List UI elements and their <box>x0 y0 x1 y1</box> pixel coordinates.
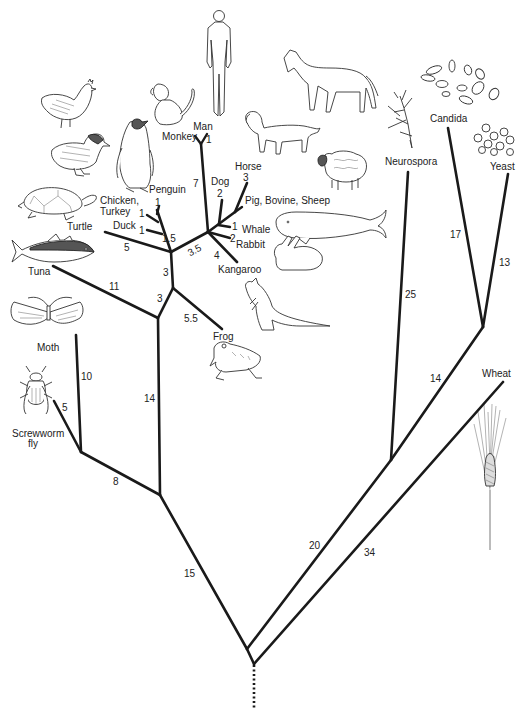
candida-illustration <box>421 60 501 106</box>
branch-insects-stem <box>81 452 160 495</box>
penguin-illustration <box>117 119 154 192</box>
label-tuna: Tuna <box>28 266 51 277</box>
label-whale: Whale <box>242 224 271 235</box>
rabbit-illustration <box>274 236 322 270</box>
dist-primates-stem: 7 <box>193 178 199 189</box>
dog-illustration <box>246 111 320 154</box>
monkey-illustration <box>151 84 195 125</box>
dist-amniote-stem: 3 <box>163 267 169 278</box>
dist-moth: 10 <box>81 371 93 382</box>
label-yeast: Yeast <box>490 161 515 172</box>
label-duck: Duck <box>113 220 137 231</box>
branch-ungulates-stem <box>208 212 235 232</box>
dist-mammals-stem: 3.5 <box>186 242 204 258</box>
label-dog: Dog <box>211 176 229 187</box>
whale-illustration <box>276 210 386 244</box>
label-horse: Horse <box>235 161 262 172</box>
wheat-illustration <box>474 404 506 550</box>
label-monkey: Monkey <box>162 131 197 142</box>
label-moth: Moth <box>37 342 59 353</box>
branch-yeast <box>483 174 508 327</box>
duck-illustration <box>51 134 110 176</box>
dist-horse: 3 <box>243 172 249 183</box>
label-wheat: Wheat <box>482 368 511 379</box>
branch-vertebrate-stem <box>158 318 160 495</box>
kangaroo-illustration <box>245 278 330 330</box>
dist-candida: 17 <box>450 229 462 240</box>
branch-chicken <box>147 215 158 222</box>
dist-tetrapod-stem: 3 <box>157 293 163 304</box>
chicken-illustration <box>41 79 96 128</box>
dist-yeasts-stem: 14 <box>430 373 442 384</box>
dist-frog: 5.5 <box>184 313 198 324</box>
branch-duck <box>147 230 162 234</box>
label-turtle: Turtle <box>67 221 93 232</box>
label-frog: Frog <box>213 331 234 342</box>
label-pig-bovine-sheep: Pig, Bovine, Sheep <box>245 195 330 206</box>
branch-birds-stem <box>157 210 171 252</box>
label-candida: Candida <box>430 113 468 124</box>
label-screwworm: Screwworm <box>12 428 64 439</box>
frog-illustration <box>210 342 262 380</box>
branch-moth <box>76 335 81 452</box>
dist-fungi-stem: 20 <box>309 540 321 551</box>
dist-penguin: 1 <box>155 197 161 208</box>
dist-yeast: 13 <box>499 257 511 268</box>
dist-duck: 1 <box>139 225 145 236</box>
screwworm-fly-illustration <box>20 366 52 414</box>
branch-neurospora <box>391 172 408 460</box>
dist-insects-stem: 8 <box>113 476 119 487</box>
label-penguin: Penguin <box>149 184 186 195</box>
label-kangaroo: Kangaroo <box>218 264 262 275</box>
turtle-illustration <box>18 188 96 220</box>
branch-base <box>247 649 254 664</box>
dist-turtle: 5 <box>124 242 130 253</box>
horse-illustration <box>284 50 378 112</box>
dist-neurospora: 25 <box>405 289 417 300</box>
moth-illustration <box>11 297 83 324</box>
dist-whale: 1 <box>232 221 238 232</box>
dist-man: 1 <box>206 134 212 145</box>
branch-whale <box>218 225 230 227</box>
branch-yeasts-stem <box>391 327 483 460</box>
dist-screwworm: 5 <box>62 402 68 413</box>
branch-candida <box>448 128 483 327</box>
label-rabbit: Rabbit <box>236 239 265 250</box>
dist-chicken: 1 <box>139 208 145 219</box>
sheep-illustration <box>318 151 367 190</box>
branch-wheat <box>254 382 503 664</box>
branch-amniote-stem <box>171 252 173 288</box>
dist-kangaroo: 4 <box>214 250 220 261</box>
neurospora-illustration <box>388 90 412 148</box>
label-neurospora: Neurospora <box>385 156 438 167</box>
dist-animals-stem: 15 <box>184 568 196 579</box>
man-illustration <box>207 11 231 117</box>
branch-primates-stem <box>201 144 208 232</box>
label-chicken: Chicken, <box>100 195 139 206</box>
phylogenetic-tree: Man Monkey Dog Horse Pig, Bovine, Sheep … <box>0 0 523 711</box>
dist-wheat: 34 <box>364 547 376 558</box>
branch-animals-stem <box>160 495 247 649</box>
dist-rabbit: 2 <box>230 233 236 244</box>
label-fly: fly <box>28 438 38 449</box>
dist-vertebrate-stem: 14 <box>144 393 156 404</box>
tuna-illustration <box>12 234 94 262</box>
yeast-illustration <box>474 124 514 156</box>
dist-birds-stem: 1.5 <box>162 233 176 244</box>
dist-tuna: 11 <box>109 281 120 292</box>
dist-dog: 2 <box>217 188 223 199</box>
label-turkey: Turkey <box>100 206 130 217</box>
